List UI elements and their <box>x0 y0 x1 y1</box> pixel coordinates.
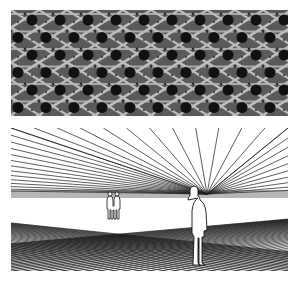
sky-ray-lines <box>11 128 288 194</box>
perspective-grid-panel <box>11 128 288 271</box>
cane-weave-texture-image <box>11 10 288 116</box>
floor-grid-lines <box>11 196 288 271</box>
cane-weave-texture-panel <box>11 10 288 116</box>
perspective-grid-drawing <box>11 128 288 271</box>
horizon-band <box>11 190 288 198</box>
illustration-figure <box>0 0 298 281</box>
